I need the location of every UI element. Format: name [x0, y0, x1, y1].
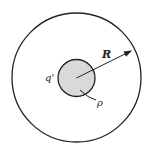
density-label: ρ: [96, 97, 103, 108]
charge-label: q': [45, 72, 54, 83]
radius-label: R: [101, 48, 111, 61]
diagram-canvas: R q' ρ: [0, 0, 146, 153]
